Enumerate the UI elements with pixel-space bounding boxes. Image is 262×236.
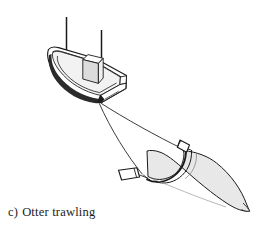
otter-trawling-illustration (0, 0, 262, 236)
trawl-net (143, 148, 250, 211)
lower-warp-line (99, 103, 142, 174)
upper-otter-board (177, 140, 189, 152)
wheelhouse-front-face (83, 60, 99, 84)
figure-container: c)Otter trawling (0, 0, 262, 236)
upper-warp-line (101, 103, 182, 149)
figure-caption: c)Otter trawling (8, 204, 208, 220)
caption-label: c) (8, 205, 18, 219)
caption-text: Otter trawling (22, 205, 95, 219)
fishing-vessel (48, 47, 127, 103)
upper-otter-board-face (177, 140, 189, 152)
wheelhouse (83, 55, 103, 84)
lower-otter-board-face (119, 168, 140, 180)
lower-otter-board (119, 168, 149, 180)
